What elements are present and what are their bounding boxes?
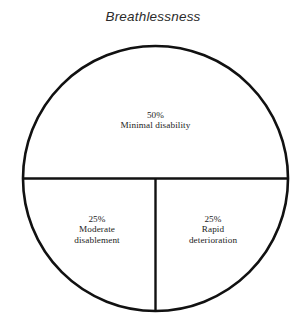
slice-label-moderate-disablement: 25% Moderate disablement	[47, 214, 147, 245]
slice-name-rapid-deterioration-line1: Rapid	[163, 224, 263, 234]
pie-chart-graphic	[0, 0, 306, 332]
slice-percent-minimal-disability: 50%	[52, 110, 259, 120]
slice-name-moderate-disablement-line2: disablement	[47, 235, 147, 245]
slice-label-minimal-disability: 50% Minimal disability	[52, 110, 259, 131]
slice-label-rapid-deterioration: 25% Rapid deterioration	[163, 214, 263, 245]
slice-name-moderate-disablement-line1: Moderate	[47, 224, 147, 234]
pie-chart-figure: Breathlessness 50% Minimal disability 25…	[0, 0, 306, 332]
slice-name-minimal-disability: Minimal disability	[52, 120, 259, 130]
slice-name-rapid-deterioration-line2: deterioration	[163, 235, 263, 245]
slice-percent-rapid-deterioration: 25%	[163, 214, 263, 224]
slice-percent-moderate-disablement: 25%	[47, 214, 147, 224]
